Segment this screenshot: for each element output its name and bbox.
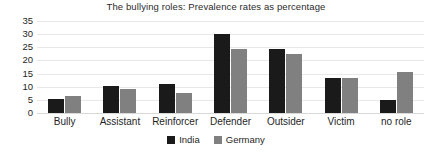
x-axis-tick-label: Defender [203, 116, 258, 127]
bar-group [214, 21, 247, 113]
bar-group [159, 21, 192, 113]
bar-group [380, 21, 413, 113]
x-axis-tick-label: Bully [37, 116, 92, 127]
bar [65, 96, 81, 113]
y-axis-tick-label: 0 [2, 108, 33, 118]
bar [103, 86, 119, 113]
bar-group [48, 21, 81, 113]
bar [159, 84, 175, 113]
legend-label: Germany [226, 134, 265, 145]
gridline [37, 113, 424, 114]
legend-entry: India [167, 134, 200, 145]
bar [48, 99, 64, 113]
bar [214, 34, 230, 113]
legend-swatch-icon [214, 136, 222, 144]
plot-area [37, 21, 424, 113]
y-axis-tick-label: 25 [2, 42, 33, 52]
bar [269, 49, 285, 113]
y-axis-tick-label: 10 [2, 82, 33, 92]
x-axis-tick-label: Reinforcer [148, 116, 203, 127]
bar-chart: The bullying roles: Prevalence rates as … [0, 0, 432, 155]
y-axis-tick-label: 5 [2, 95, 33, 105]
bar [397, 72, 413, 113]
y-axis-tick-label: 30 [2, 29, 33, 39]
bar [231, 49, 247, 113]
x-axis-tick-label: Assistant [92, 116, 147, 127]
x-axis-tick-label: Victim [313, 116, 368, 127]
x-axis-tick-label: no role [369, 116, 424, 127]
bar-group [325, 21, 358, 113]
bar [325, 78, 341, 113]
legend-swatch-icon [167, 136, 175, 144]
y-axis-tick-label: 15 [2, 69, 33, 79]
bar [286, 54, 302, 113]
bar [120, 89, 136, 113]
bar [176, 93, 192, 113]
chart-legend: IndiaGermany [0, 134, 432, 145]
legend-label: India [179, 134, 200, 145]
x-axis-tick-label: Outsider [258, 116, 313, 127]
y-axis-tick-label: 20 [2, 55, 33, 65]
bar-group [103, 21, 136, 113]
legend-entry: Germany [214, 134, 265, 145]
chart-title: The bullying roles: Prevalence rates as … [0, 1, 432, 12]
y-axis-tick-label: 35 [2, 16, 33, 26]
bar [342, 78, 358, 113]
bar-group [269, 21, 302, 113]
bar [380, 100, 396, 113]
